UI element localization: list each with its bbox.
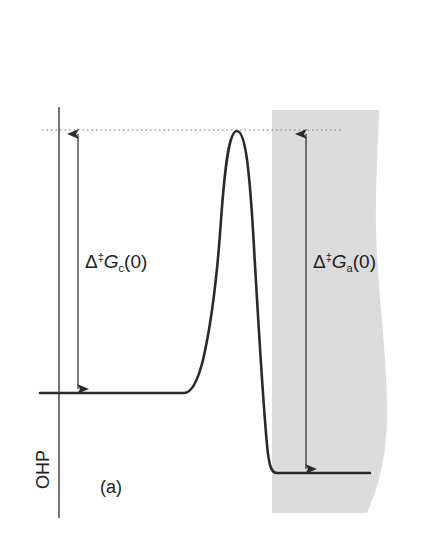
gibbs-symbol: G	[104, 251, 119, 272]
panel-label: (a)	[100, 477, 122, 498]
delta-symbol: Δ	[85, 251, 98, 272]
electrode-region	[272, 110, 387, 513]
argument: (0)	[353, 251, 376, 272]
gibbs-symbol: G	[332, 251, 347, 272]
cathodic-barrier-label: Δ‡Gc(0)	[85, 247, 147, 278]
delta-symbol: Δ	[313, 251, 326, 272]
ohp-label: OHP	[33, 450, 54, 489]
anodic-barrier-label: Δ‡Ga(0)	[313, 247, 376, 278]
argument: (0)	[124, 251, 147, 272]
